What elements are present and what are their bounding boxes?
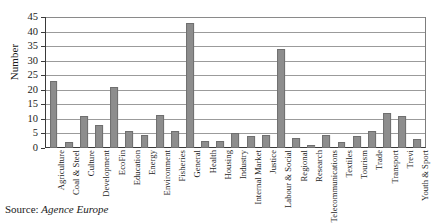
x-tick-label: Trevi [406,150,415,169]
bar [338,142,346,148]
bar [413,139,421,148]
bar-slot [380,17,395,148]
y-tick-label: 0 [33,143,38,154]
y-tick-mark [41,148,45,149]
x-tick-label: Development [102,150,111,197]
y-tick-label: 40 [28,26,39,37]
x-tick-label: Youth & Sport [421,150,430,201]
bar [141,135,149,148]
bar-series [46,17,425,148]
bar [65,142,73,148]
bar-slot [258,17,273,148]
bar-slot [122,17,137,148]
x-tick-label: Internal Market [254,150,263,204]
bar [353,136,361,148]
bar [125,131,133,148]
x-tick-label: Energy [148,150,157,175]
bar-slot [61,17,76,148]
x-tick-label: Labour & Social [284,150,293,208]
x-tick-label: Tourism [360,150,369,179]
x-tick-label: Telecommunications [330,150,339,222]
bar-chart-figure: Number 051015202530354045 AgricultureCoa… [0,0,435,223]
x-tick-label: Regional [300,150,309,181]
bar [398,116,406,148]
bar-slot [273,17,288,148]
x-tick-label: Industry [239,150,248,179]
x-tick-label: Coal & Steel [72,150,81,195]
bar [247,136,255,148]
bar [368,131,376,148]
bar-slot [228,17,243,148]
x-tick-label: Culture [87,150,96,176]
x-tick-label: Trade [375,150,384,170]
bar-slot [349,17,364,148]
bar [201,141,209,148]
y-tick-label: 20 [28,85,39,96]
bar [277,49,285,148]
bar-slot [76,17,91,148]
x-tick-label: Fisheries [178,150,187,181]
y-tick-label: 10 [28,114,39,125]
bar [156,115,164,148]
bar [95,125,103,148]
source-name: Agence Europe [41,203,108,215]
bar-slot [137,17,152,148]
bar [50,81,58,148]
bar-slot [91,17,106,148]
x-tick-label: Education [133,150,142,185]
y-tick-label: 15 [28,99,39,110]
bar-slot [395,17,410,148]
x-tick-label: General [193,150,202,178]
bar [383,113,391,148]
source-prefix: Source: [5,203,39,215]
x-tick-label: Housing [224,150,233,179]
bar [262,135,270,148]
bar-slot [304,17,319,148]
bar [80,116,88,148]
y-tick-label: 30 [28,55,39,66]
bar [216,141,224,148]
x-tick-label: Environment [163,150,172,195]
bar [307,145,315,148]
bar [232,133,240,148]
bar-slot [243,17,258,148]
y-tick-label: 25 [28,70,39,81]
bar-slot [182,17,197,148]
bar [323,135,331,148]
bar [292,138,300,148]
bar-slot [289,17,304,148]
y-tick-label: 35 [28,41,39,52]
bar-slot [107,17,122,148]
y-tick-label: 45 [28,12,39,23]
bar-slot [334,17,349,148]
bar [110,87,118,148]
bar-slot [167,17,182,148]
x-tick-label: Justice [269,150,278,174]
x-tick-label: Transport [391,150,400,184]
x-tick-label: Research [315,150,324,182]
bar-slot [410,17,425,148]
y-tick-label: 5 [33,128,38,139]
bar [186,23,194,148]
source-caption: Source: Agence Europe [5,203,108,215]
y-axis-tick-labels: 051015202530354045 [0,0,45,165]
bar-slot [46,17,61,148]
bar-slot [364,17,379,148]
x-tick-label: Health [209,150,218,173]
bar-slot [198,17,213,148]
bar-slot [319,17,334,148]
x-tick-label: Textiles [345,150,354,177]
bar [171,131,179,148]
bar-slot [152,17,167,148]
bar-slot [213,17,228,148]
x-axis-tick-labels: AgricultureCoal & SteelCultureDevelopmen… [46,150,425,208]
x-tick-label: Agriculture [57,150,66,190]
x-tick-label: EcoFin [118,150,127,175]
